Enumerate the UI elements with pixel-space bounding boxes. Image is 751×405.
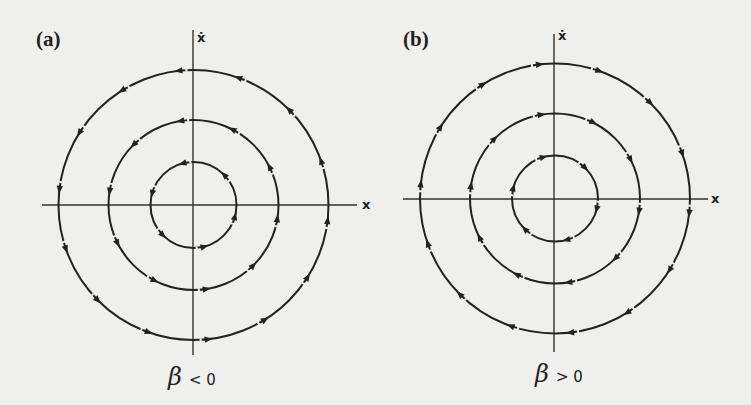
flow-arrow-icon bbox=[113, 239, 122, 249]
panel-a-y-axis-label: ẋ bbox=[197, 30, 206, 45]
flow-arrow-icon bbox=[536, 61, 545, 68]
orbit-gap bbox=[482, 243, 483, 245]
panel-b-beta-symbol: β bbox=[534, 360, 549, 388]
panel-a-label: (a) bbox=[36, 27, 61, 51]
panel-b-y-axis-label: ẋ bbox=[558, 28, 567, 43]
flow-arrow-icon bbox=[595, 67, 605, 76]
flow-arrow-icon bbox=[506, 322, 516, 331]
orbit-gap bbox=[114, 236, 115, 238]
orbit-gap bbox=[517, 328, 519, 329]
panel-b-relation: > 0 bbox=[556, 368, 583, 386]
orbit-gap bbox=[679, 145, 680, 147]
orbit-gap bbox=[63, 241, 64, 243]
flow-arrow-icon bbox=[62, 245, 71, 255]
flow-arrow-icon bbox=[626, 155, 635, 165]
orbit-gap bbox=[272, 173, 273, 175]
orbit-gap bbox=[464, 299, 465, 300]
flow-arrow-icon bbox=[317, 156, 326, 166]
orbit-gap bbox=[157, 229, 158, 230]
orbit-gap bbox=[196, 248, 198, 249]
orbit-gap bbox=[523, 277, 525, 278]
panel-b: (b) x ẋ β > 0 bbox=[403, 27, 720, 388]
flow-arrow-icon bbox=[56, 186, 63, 195]
flow-arrow-icon bbox=[589, 118, 599, 127]
orbit-gap bbox=[138, 139, 139, 140]
panel-a: (a) x ẋ β < 0 bbox=[36, 27, 371, 391]
flow-arrow-icon bbox=[566, 329, 575, 336]
flow-arrow-icon bbox=[423, 238, 432, 248]
orbit-gap bbox=[591, 68, 593, 69]
orbit-gap bbox=[436, 133, 437, 135]
flow-arrow-icon bbox=[686, 209, 693, 218]
orbit-gap bbox=[303, 283, 304, 285]
orbit-gap bbox=[673, 263, 674, 265]
flow-arrow-icon bbox=[150, 276, 160, 285]
orbit-gap bbox=[294, 114, 295, 115]
flow-arrow-icon bbox=[678, 149, 687, 159]
panel-a-condition: β < 0 bbox=[167, 363, 216, 391]
orbit-gap bbox=[83, 126, 84, 128]
panel-b-label: (b) bbox=[403, 27, 429, 51]
phase-portrait-figure: (a) x ẋ β < 0 (b) x ẋ β > 0 bbox=[0, 0, 751, 405]
flow-arrow-icon bbox=[417, 179, 424, 188]
orbit-gap bbox=[598, 201, 599, 203]
panel-a-x-axis-label: x bbox=[362, 197, 371, 212]
orbit-gap bbox=[489, 143, 490, 144]
orbit-gap bbox=[586, 119, 588, 120]
panel-a-relation: < 0 bbox=[189, 371, 216, 389]
orbit-gap bbox=[233, 223, 234, 225]
orbit-gap bbox=[620, 252, 621, 253]
panel-b-condition: β > 0 bbox=[534, 360, 583, 388]
orbit-gap bbox=[247, 270, 248, 271]
flow-arrow-icon bbox=[475, 232, 484, 242]
flow-arrow-icon bbox=[174, 67, 183, 74]
orbit-gap bbox=[128, 86, 130, 87]
orbit-gap bbox=[229, 180, 230, 181]
orbit-gap bbox=[644, 97, 645, 98]
orbit-gap bbox=[189, 161, 191, 162]
flow-arrow-icon bbox=[265, 161, 274, 171]
orbit-gap bbox=[633, 308, 635, 309]
orbit-gap bbox=[573, 238, 575, 239]
orbit-gap bbox=[530, 234, 531, 235]
orbit-gap bbox=[147, 277, 149, 278]
orbit-gap bbox=[430, 250, 431, 252]
orbit-gap bbox=[140, 329, 142, 330]
flow-arrow-icon bbox=[233, 73, 243, 82]
orbit-gap bbox=[511, 194, 512, 196]
orbit-gap bbox=[258, 323, 260, 324]
flow-arrow-icon bbox=[324, 216, 331, 225]
panel-b-x-axis-label: x bbox=[711, 191, 720, 206]
orbit-gap bbox=[579, 162, 580, 163]
orbit-gap bbox=[245, 80, 247, 81]
orbit-gap bbox=[238, 132, 240, 133]
flow-arrow-icon bbox=[144, 328, 154, 337]
orbit-gap bbox=[154, 185, 155, 187]
orbit-gap bbox=[476, 88, 478, 89]
flow-arrow-icon bbox=[227, 125, 237, 134]
orbit-gap bbox=[323, 167, 324, 169]
panel-a-beta-symbol: β bbox=[167, 363, 182, 391]
flow-arrow-icon bbox=[511, 270, 521, 279]
flow-arrow-icon bbox=[204, 336, 213, 343]
orbit-gap bbox=[627, 152, 628, 154]
orbit-gap bbox=[92, 294, 93, 295]
orbit-gap bbox=[535, 159, 537, 160]
